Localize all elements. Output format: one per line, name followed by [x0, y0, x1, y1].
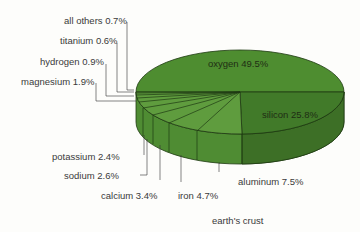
label-oxygen: oxygen 49.5% [208, 58, 269, 69]
label-sodium: sodium 2.6% [64, 170, 119, 181]
label-silicon: silicon 25.8% [262, 109, 319, 120]
label-magnesium: magnesium 1.9% [21, 76, 95, 87]
label-hydrogen: hydrogen 0.9% [40, 56, 104, 67]
label-potassium: potassium 2.4% [52, 151, 120, 162]
label-iron: iron 4.7% [178, 190, 219, 201]
oxygen-slice [136, 50, 344, 92]
label-all-others: all others 0.7% [64, 15, 127, 26]
pie-chart: oxygen 49.5% silicon 25.8% all others 0.… [0, 0, 360, 232]
label-calcium: calcium 3.4% [101, 190, 158, 201]
label-aluminum: aluminum 7.5% [238, 176, 304, 187]
label-titanium: titanium 0.6% [60, 35, 118, 46]
chart-caption: earth's crust [212, 215, 264, 226]
